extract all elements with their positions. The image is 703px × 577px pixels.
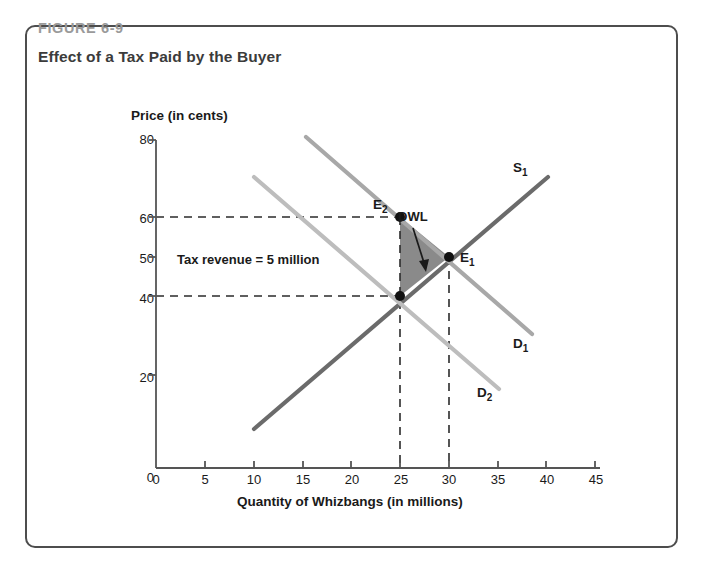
chart-plot-area bbox=[0, 0, 703, 577]
point-label-e2: E2 bbox=[373, 197, 388, 215]
point-label-e1: E1 bbox=[460, 250, 475, 268]
curve-label-s1: S1 bbox=[513, 160, 528, 178]
tax-revenue-annotation: Tax revenue = 5 million bbox=[177, 252, 319, 267]
curve-label-d2: D2 bbox=[477, 385, 492, 403]
curve-label-d1: D1 bbox=[513, 336, 528, 354]
point-marker-seller-price bbox=[395, 291, 405, 301]
dwl-annotation: DWL bbox=[398, 209, 428, 224]
demand-curve-d1 bbox=[306, 137, 532, 334]
point-marker-e1 bbox=[444, 252, 454, 262]
